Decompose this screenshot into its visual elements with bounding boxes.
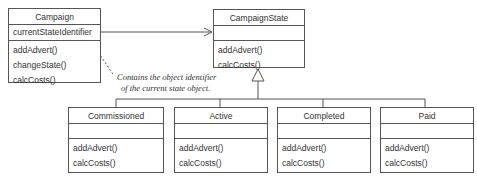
attributes-compartment [175,124,267,139]
operation: addAdvert() [175,141,267,156]
class-name: Completed [278,108,370,124]
note-annotation: Contains the object identifier of the cu… [117,72,216,94]
attributes-compartment [69,124,163,139]
class-commissioned: Commissioned addAdvert() calcCosts() [68,107,164,173]
operation: calcCosts() [214,58,304,73]
operation: calcCosts() [69,156,163,171]
class-name: Commissioned [69,108,163,124]
operations-compartment: addAdvert() changeState() calcCosts() [9,41,100,88]
class-name: Paid [381,108,473,124]
operation: calcCosts() [9,73,100,88]
operations-compartment: addAdvert() calcCosts() [278,139,370,171]
operation: addAdvert() [381,141,473,156]
attribute: currentStateIdentifier [9,25,100,40]
class-campaign: Campaign currentStateIdentifier addAdver… [8,8,101,83]
note-line-1: Contains the object identifier [117,72,216,83]
class-name: CampaignState [214,10,304,26]
operations-compartment: addAdvert() calcCosts() [214,41,304,73]
note-line-2: of the current state object. [117,83,216,94]
operations-compartment: addAdvert() calcCosts() [175,139,267,171]
class-paid: Paid addAdvert() calcCosts() [380,107,474,173]
operation: addAdvert() [69,141,163,156]
operation: calcCosts() [278,156,370,171]
operation: addAdvert() [278,141,370,156]
operation: addAdvert() [214,43,304,58]
operations-compartment: addAdvert() calcCosts() [69,139,163,171]
operations-compartment: addAdvert() calcCosts() [381,139,473,171]
attributes-compartment [381,124,473,139]
attributes-compartment [278,124,370,139]
operation: calcCosts() [175,156,267,171]
class-active: Active addAdvert() calcCosts() [174,107,268,173]
class-campaign-state: CampaignState addAdvert() calcCosts() [213,9,305,68]
class-name: Campaign [9,9,100,25]
class-name: Active [175,108,267,124]
operation: addAdvert() [9,43,100,58]
operation: calcCosts() [381,156,473,171]
attributes-compartment [214,26,304,41]
operation: changeState() [9,58,100,73]
class-completed: Completed addAdvert() calcCosts() [277,107,371,173]
attributes-compartment: currentStateIdentifier [9,25,100,41]
